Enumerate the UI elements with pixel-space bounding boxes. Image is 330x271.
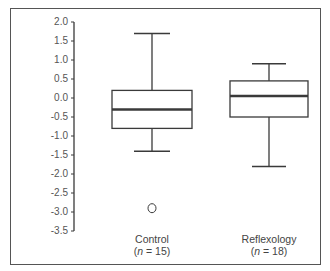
x-label-control: Control (n = 15) xyxy=(102,233,202,257)
control-name: Control xyxy=(102,233,202,245)
reflexology-name: Reflexology xyxy=(219,233,319,245)
x-label-reflexology: Reflexology (n = 18) xyxy=(219,233,319,257)
control-n: (n = 15) xyxy=(102,245,202,257)
control-outlier-marker xyxy=(148,204,156,213)
reflexology-box xyxy=(230,81,308,117)
reflexology-n: (n = 18) xyxy=(219,245,319,257)
box-plot xyxy=(0,0,330,271)
